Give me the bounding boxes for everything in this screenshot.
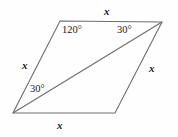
side-label-top: x (104, 6, 110, 17)
side-label-right: x (149, 63, 155, 74)
diagonal-line (13, 22, 162, 113)
angle-label-bottom-left: 30° (30, 84, 45, 95)
side-label-bottom: x (57, 120, 63, 131)
angle-label-top-left: 120° (62, 25, 82, 36)
angle-label-top-right: 30° (117, 25, 132, 36)
geometry-figure: x x x x 120° 30° 30° (0, 0, 178, 137)
side-label-left: x (22, 60, 28, 71)
